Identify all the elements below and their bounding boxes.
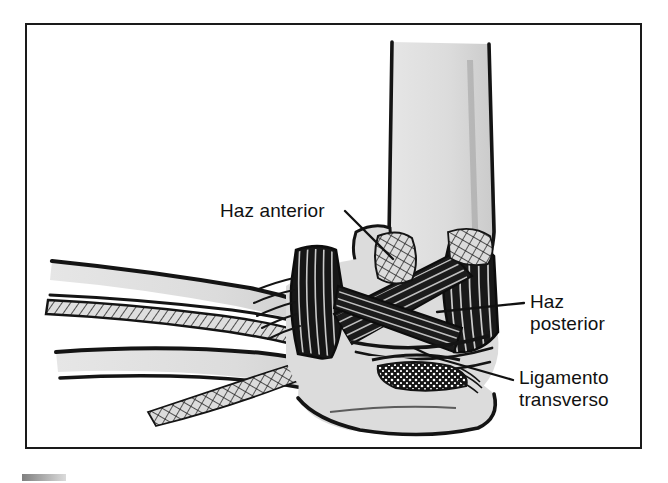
posterior-capsule-hatch — [448, 229, 493, 265]
label-haz-posterior-line1: Haz — [530, 291, 564, 312]
caption-strip-fragment — [22, 474, 66, 481]
capsule-hatch-patch — [375, 232, 416, 283]
label-haz-anterior: Haz anterior — [220, 200, 325, 222]
label-haz-posterior: Hazposterior — [530, 291, 605, 335]
figure-page: Haz anterior Hazposterior Ligamentotrans… — [0, 0, 668, 483]
label-haz-posterior-line2: posterior — [530, 313, 605, 334]
label-ligamento-transverso-line2: transverso — [519, 389, 609, 410]
label-ligamento-transverso-line1: Ligamento — [519, 367, 609, 388]
label-ligamento-transverso: Ligamentotransverso — [519, 367, 609, 411]
